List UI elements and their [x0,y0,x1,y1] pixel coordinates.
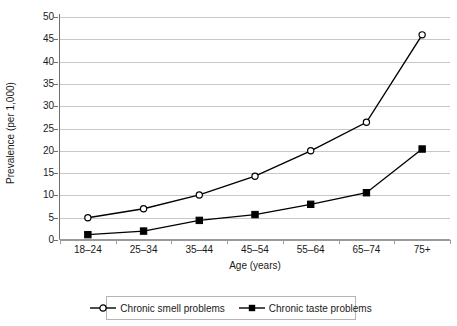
y-tick-label: 0 [8,235,54,245]
y-tick-label: 20 [8,146,54,156]
filled-square-icon [239,303,265,313]
x-axis-tick-labels: 18–2425–3435–4445–5455–6465–7475+ [60,244,450,260]
data-point-marker [363,119,369,125]
data-point-marker [252,211,258,217]
data-point-marker [252,173,258,179]
series-line [88,149,422,235]
data-point-marker [419,32,425,38]
y-tick-label: 15 [8,168,54,178]
legend-entry: Chronic taste problems [239,303,372,314]
data-point-marker [308,201,314,207]
data-point-marker [363,190,369,196]
y-tick-label: 40 [8,57,54,67]
y-tick-mark [54,129,58,130]
y-tick-mark [54,17,58,18]
chart-legend: Chronic smell problemsChronic taste prob… [106,296,356,320]
x-axis-title: Age (years) [60,260,450,271]
y-tick-label: 35 [8,79,54,89]
data-point-marker [308,148,314,154]
y-tick-mark [54,173,58,174]
data-point-marker [140,206,146,212]
chart-figure: Prevalence (per 1,000) 05101520253035404… [0,0,457,326]
y-tick-mark [54,151,58,152]
data-point-marker [85,215,91,221]
y-tick-mark [54,240,58,241]
y-tick-label: 50 [8,12,54,22]
y-tick-label: 45 [8,34,54,44]
data-point-marker [140,228,146,234]
y-tick-mark [54,218,58,219]
y-tick-label: 30 [8,101,54,111]
plot-area [60,17,450,240]
y-tick-label: 25 [8,124,54,134]
legend-label: Chronic taste problems [269,303,372,314]
y-tick-label: 5 [8,213,54,223]
data-point-marker [419,146,425,152]
series-layer [60,17,450,240]
series-line [88,35,422,218]
legend-entry: Chronic smell problems [90,303,224,314]
data-point-marker [196,192,202,198]
y-tick-mark [54,39,58,40]
open-circle-icon [90,303,116,313]
y-tick-mark [54,62,58,63]
y-axis-tick-labels: 05101520253035404550 [8,17,54,240]
legend-label: Chronic smell problems [120,303,224,314]
data-point-marker [196,217,202,223]
data-point-marker [85,231,91,237]
y-tick-mark [54,106,58,107]
y-tick-label: 10 [8,190,54,200]
y-tick-mark [54,84,58,85]
x-tick-label: 75+ [387,244,457,256]
y-tick-mark [54,195,58,196]
